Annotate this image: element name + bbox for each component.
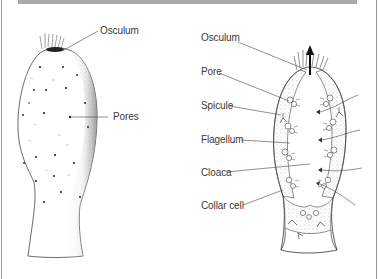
leader-line-osculum-right — [238, 42, 307, 70]
left-sponge — [18, 31, 108, 258]
osculum-bristles — [40, 33, 64, 49]
label-flagellum: Flagellum — [201, 134, 243, 146]
sponge-illustrations — [0, 0, 378, 279]
leader-line-osculum-left — [64, 31, 98, 50]
label-pore: Pore — [201, 66, 222, 78]
label-osculum-left: Osculum — [100, 25, 139, 37]
leader-line-spicule — [230, 106, 281, 115]
diagram-frame: Osculum Pores Osculum Pore Spicule Flage… — [0, 0, 378, 279]
label-collar-cell: Collar cell — [201, 200, 244, 212]
label-osculum-right: Osculum — [201, 32, 240, 44]
label-pores: Pores — [113, 111, 139, 123]
leader-line-collar-cell — [243, 190, 283, 205]
label-cloaca: Cloaca — [201, 167, 232, 179]
leader-line-pore — [219, 73, 289, 101]
label-spicule: Spicule — [201, 100, 233, 112]
right-sponge — [219, 42, 362, 253]
